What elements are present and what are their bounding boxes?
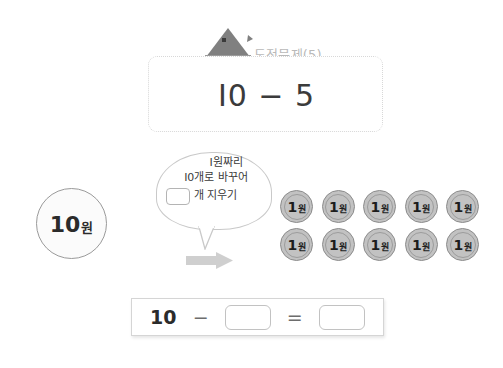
coin-one-won[interactable]: 1원	[280, 190, 313, 223]
coin-value: 1	[412, 238, 422, 252]
coin-value: 1	[453, 238, 463, 252]
bubble-line-1: I원짜리	[160, 156, 270, 171]
ten-won-coin[interactable]: 10 원	[36, 188, 107, 259]
coin-unit: 원	[339, 243, 347, 252]
coin-unit: 원	[298, 243, 306, 252]
coin-one-won[interactable]: 1원	[322, 228, 355, 261]
bubble-line-3: 개 지우기	[160, 188, 270, 205]
problem-expression: I0 − 5	[149, 57, 384, 133]
coin-unit: 원	[422, 243, 430, 252]
problem-box: I0 − 5	[148, 56, 383, 132]
coin-value: 1	[329, 200, 339, 214]
coin-one-won[interactable]: 1원	[363, 228, 396, 261]
speech-bubble-text: I원짜리 I0개로 바꾸어 개 지우기	[160, 156, 270, 205]
coin-one-won[interactable]: 1원	[363, 190, 396, 223]
equation-subtrahend-input[interactable]	[225, 305, 271, 330]
coin-one-won[interactable]: 1원	[280, 228, 313, 261]
coin-one-won[interactable]: 1원	[446, 190, 479, 223]
ten-won-coin-unit: 원	[81, 192, 93, 263]
coin-unit: 원	[464, 243, 472, 252]
coin-value: 1	[287, 200, 297, 214]
coin-unit: 원	[464, 205, 472, 214]
coin-unit: 원	[339, 205, 347, 214]
equation-result-input[interactable]	[319, 305, 365, 330]
one-won-coin-grid: 1원 1원 1원 1원 1원 1원 1원 1원 1원 1원	[280, 190, 488, 264]
coin-value: 1	[329, 238, 339, 252]
coin-value: 1	[370, 200, 380, 214]
equation-equals-operator: =	[287, 306, 303, 328]
coin-one-won[interactable]: 1원	[322, 190, 355, 223]
coin-unit: 원	[298, 205, 306, 214]
coin-value: 1	[453, 200, 463, 214]
coin-one-won[interactable]: 1원	[405, 190, 438, 223]
equation-minus-operator: −	[193, 306, 209, 328]
equation-bar: 10 − =	[131, 298, 384, 336]
right-arrow-icon	[186, 252, 233, 269]
coin-unit: 원	[381, 243, 389, 252]
bubble-line-2: I0개로 바꾸어	[160, 171, 270, 186]
coin-unit: 원	[381, 205, 389, 214]
coin-value: 1	[370, 238, 380, 252]
coin-unit: 원	[422, 205, 430, 214]
bubble-blank-input[interactable]	[166, 188, 190, 205]
ten-won-coin-value: 10	[50, 189, 81, 260]
coin-value: 1	[287, 238, 297, 252]
coin-one-won[interactable]: 1원	[405, 228, 438, 261]
bubble-line-3-suffix: 개 지우기	[194, 189, 238, 204]
coin-value: 1	[412, 200, 422, 214]
coin-one-won[interactable]: 1원	[446, 228, 479, 261]
equation-operand-left: 10	[150, 306, 176, 328]
speech-bubble-tail	[198, 226, 216, 250]
